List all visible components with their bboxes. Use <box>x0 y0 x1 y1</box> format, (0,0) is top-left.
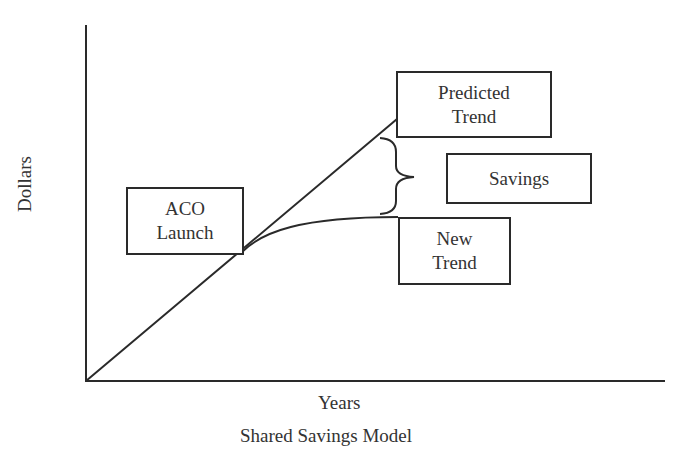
diagram-title: Shared Savings Model <box>240 425 412 447</box>
y-axis-label: Dollars <box>14 144 36 224</box>
savings-box: Savings <box>446 153 592 204</box>
x-axis-label: Years <box>318 392 360 414</box>
savings-brace <box>380 138 414 214</box>
new-trend-box: New Trend <box>398 217 511 285</box>
new-trend-line1: New <box>432 227 477 251</box>
savings-label: Savings <box>489 167 549 191</box>
new-trend-line2: Trend <box>432 251 477 275</box>
predicted-trend-line1: Predicted <box>438 81 510 105</box>
aco-launch-line2: Launch <box>157 221 214 245</box>
aco-launch-box: ACO Launch <box>126 187 244 255</box>
new-trend-curve <box>242 217 398 252</box>
aco-launch-line1: ACO <box>157 197 214 221</box>
predicted-trend-box: Predicted Trend <box>396 71 552 138</box>
predicted-trend-line2: Trend <box>438 105 510 129</box>
